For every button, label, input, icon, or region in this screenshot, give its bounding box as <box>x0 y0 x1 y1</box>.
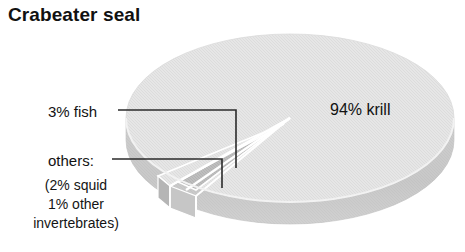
others-breakdown-line-2: 1% other <box>0 195 152 214</box>
slice-label-fish: 3% fish <box>48 103 97 120</box>
others-breakdown-line-3: invertebrates) <box>0 214 152 233</box>
chart-title: Crabeater seal <box>8 4 140 26</box>
others-breakdown-line-1: (2% squid <box>0 176 152 195</box>
others-breakdown: (2% squid 1% other invertebrates) <box>0 176 152 233</box>
slice-label-others: others: <box>48 152 94 169</box>
pie-chart-figure: Crabeater seal 3% fish others: 94% krill… <box>0 0 465 252</box>
slice-label-krill: 94% krill <box>330 101 390 119</box>
